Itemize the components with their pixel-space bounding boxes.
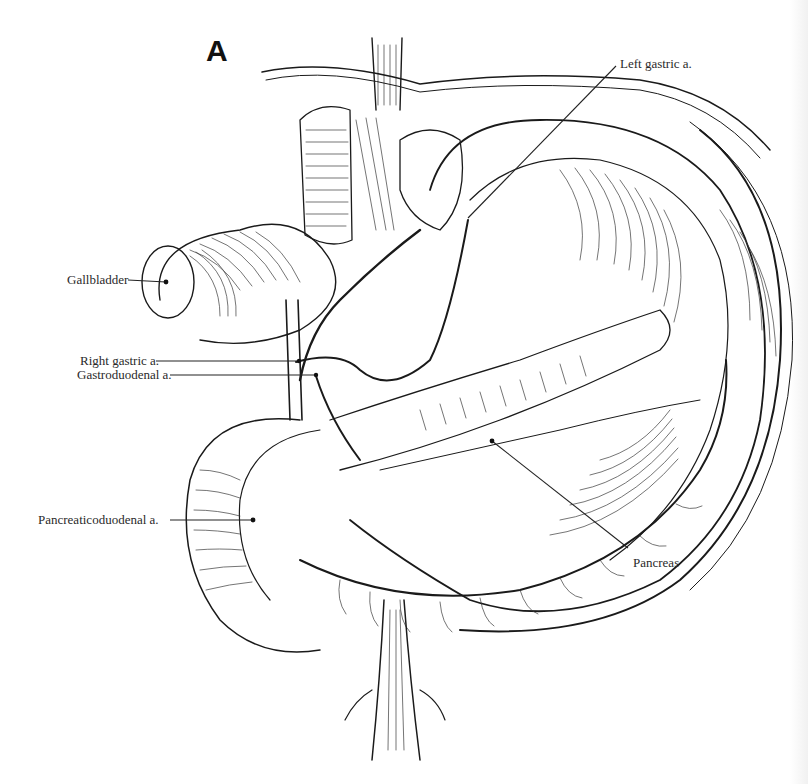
label-gallbladder: Gallbladder bbox=[67, 273, 128, 287]
label-gastroduodenal-artery: Gastroduodenal a. bbox=[77, 368, 172, 382]
duodenum-drawing bbox=[186, 419, 320, 652]
diaphragm-drawing bbox=[262, 67, 770, 158]
label-left-gastric-artery: Left gastric a. bbox=[620, 57, 692, 71]
anatomy-figure: A Left gastric a. Gallbladder Right gast… bbox=[0, 0, 808, 784]
label-pancreaticoduodenal-artery: Pancreaticoduodenal a. bbox=[38, 513, 159, 527]
liver-drawing bbox=[159, 224, 336, 343]
stomach-illustration bbox=[0, 0, 808, 784]
leader-left-gastric bbox=[468, 66, 616, 218]
pancreas-drawing bbox=[330, 310, 700, 470]
label-pancreas: Pancreas bbox=[633, 556, 679, 570]
leader-pancreas bbox=[492, 441, 628, 548]
label-right-gastric-artery: Right gastric a. bbox=[80, 354, 159, 368]
aorta-drawing bbox=[345, 600, 445, 760]
leader-lines bbox=[128, 66, 628, 548]
panel-letter: A bbox=[206, 34, 228, 68]
